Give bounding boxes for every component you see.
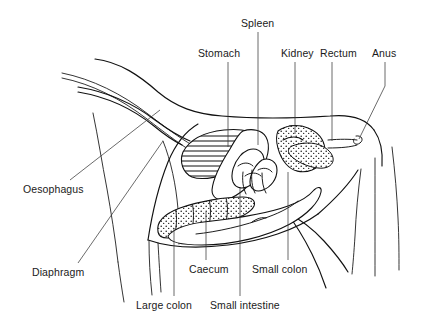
label-spleen: Spleen — [241, 18, 274, 29]
label-stomach: Stomach — [198, 48, 240, 59]
label-kidney: Kidney — [281, 48, 314, 59]
leader-oesophagus — [70, 110, 160, 180]
label-caecum: Caecum — [189, 264, 229, 275]
label-small-intestine: Small intestine — [210, 300, 280, 311]
oesophagus-organ — [62, 73, 192, 149]
label-anus: Anus — [372, 48, 396, 59]
label-large-colon: Large colon — [136, 300, 192, 311]
leader-diaphragm — [78, 141, 163, 263]
label-small-colon: Small colon — [252, 264, 307, 275]
label-rectum: Rectum — [320, 48, 357, 59]
label-diaphragm: Diaphragm — [32, 267, 84, 278]
anatomy-diagram: Spleen Stomach Kidney Rectum Anus Oesoph… — [0, 0, 422, 326]
rectum-organ — [328, 136, 362, 148]
label-oesophagus: Oesophagus — [23, 184, 84, 195]
leader-anus-b — [359, 86, 385, 139]
small-colon-organ — [277, 126, 334, 172]
